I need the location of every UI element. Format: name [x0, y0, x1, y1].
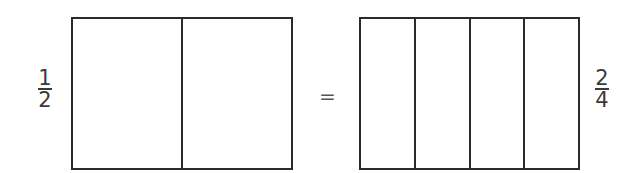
rectangle-quarter-4 [523, 19, 578, 168]
rectangle-half-1 [73, 19, 181, 168]
rectangle-quarter-2 [414, 19, 469, 168]
fraction-one-half: 1 2 [33, 70, 57, 108]
fraction-numerator: 2 [595, 70, 608, 86]
rectangle-quarter-1 [361, 19, 414, 168]
rectangle-quarter-3 [469, 19, 524, 168]
fraction-denominator: 4 [595, 92, 608, 108]
rectangle-half-2 [181, 19, 291, 168]
rectangle-quarters [359, 17, 580, 170]
fraction-denominator: 2 [38, 92, 51, 108]
fraction-numerator: 1 [38, 70, 51, 86]
fraction-two-quarters: 2 4 [590, 70, 614, 108]
rectangle-halves [71, 17, 293, 170]
equals-sign: = [319, 86, 336, 106]
